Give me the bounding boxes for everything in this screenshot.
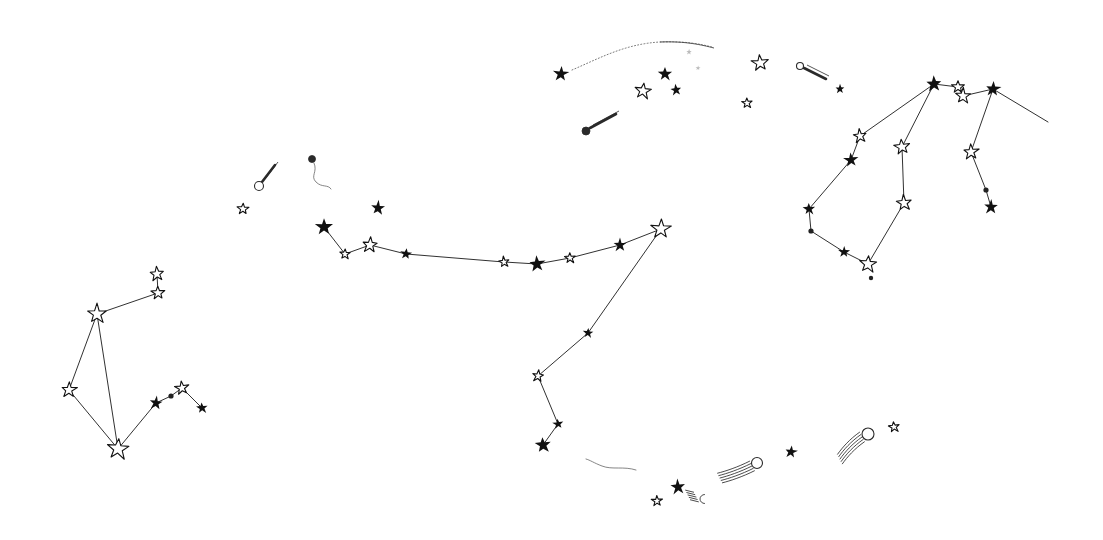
star-right-group-r16 bbox=[983, 187, 988, 192]
star-lower-left-group-ll9 bbox=[168, 393, 173, 398]
star-right-group-r9 bbox=[808, 228, 813, 233]
comet-head-1 bbox=[582, 127, 590, 135]
comet-head-6 bbox=[862, 428, 874, 440]
comet-head-5 bbox=[752, 458, 763, 469]
comet-head-3 bbox=[309, 156, 316, 163]
star-right-group-r12 bbox=[869, 276, 873, 280]
sky-canvas bbox=[0, 0, 1103, 540]
comet-head-2 bbox=[255, 182, 264, 191]
comet-head-4 bbox=[797, 63, 804, 70]
chart-background bbox=[0, 0, 1103, 540]
constellation-chart bbox=[0, 0, 1103, 540]
